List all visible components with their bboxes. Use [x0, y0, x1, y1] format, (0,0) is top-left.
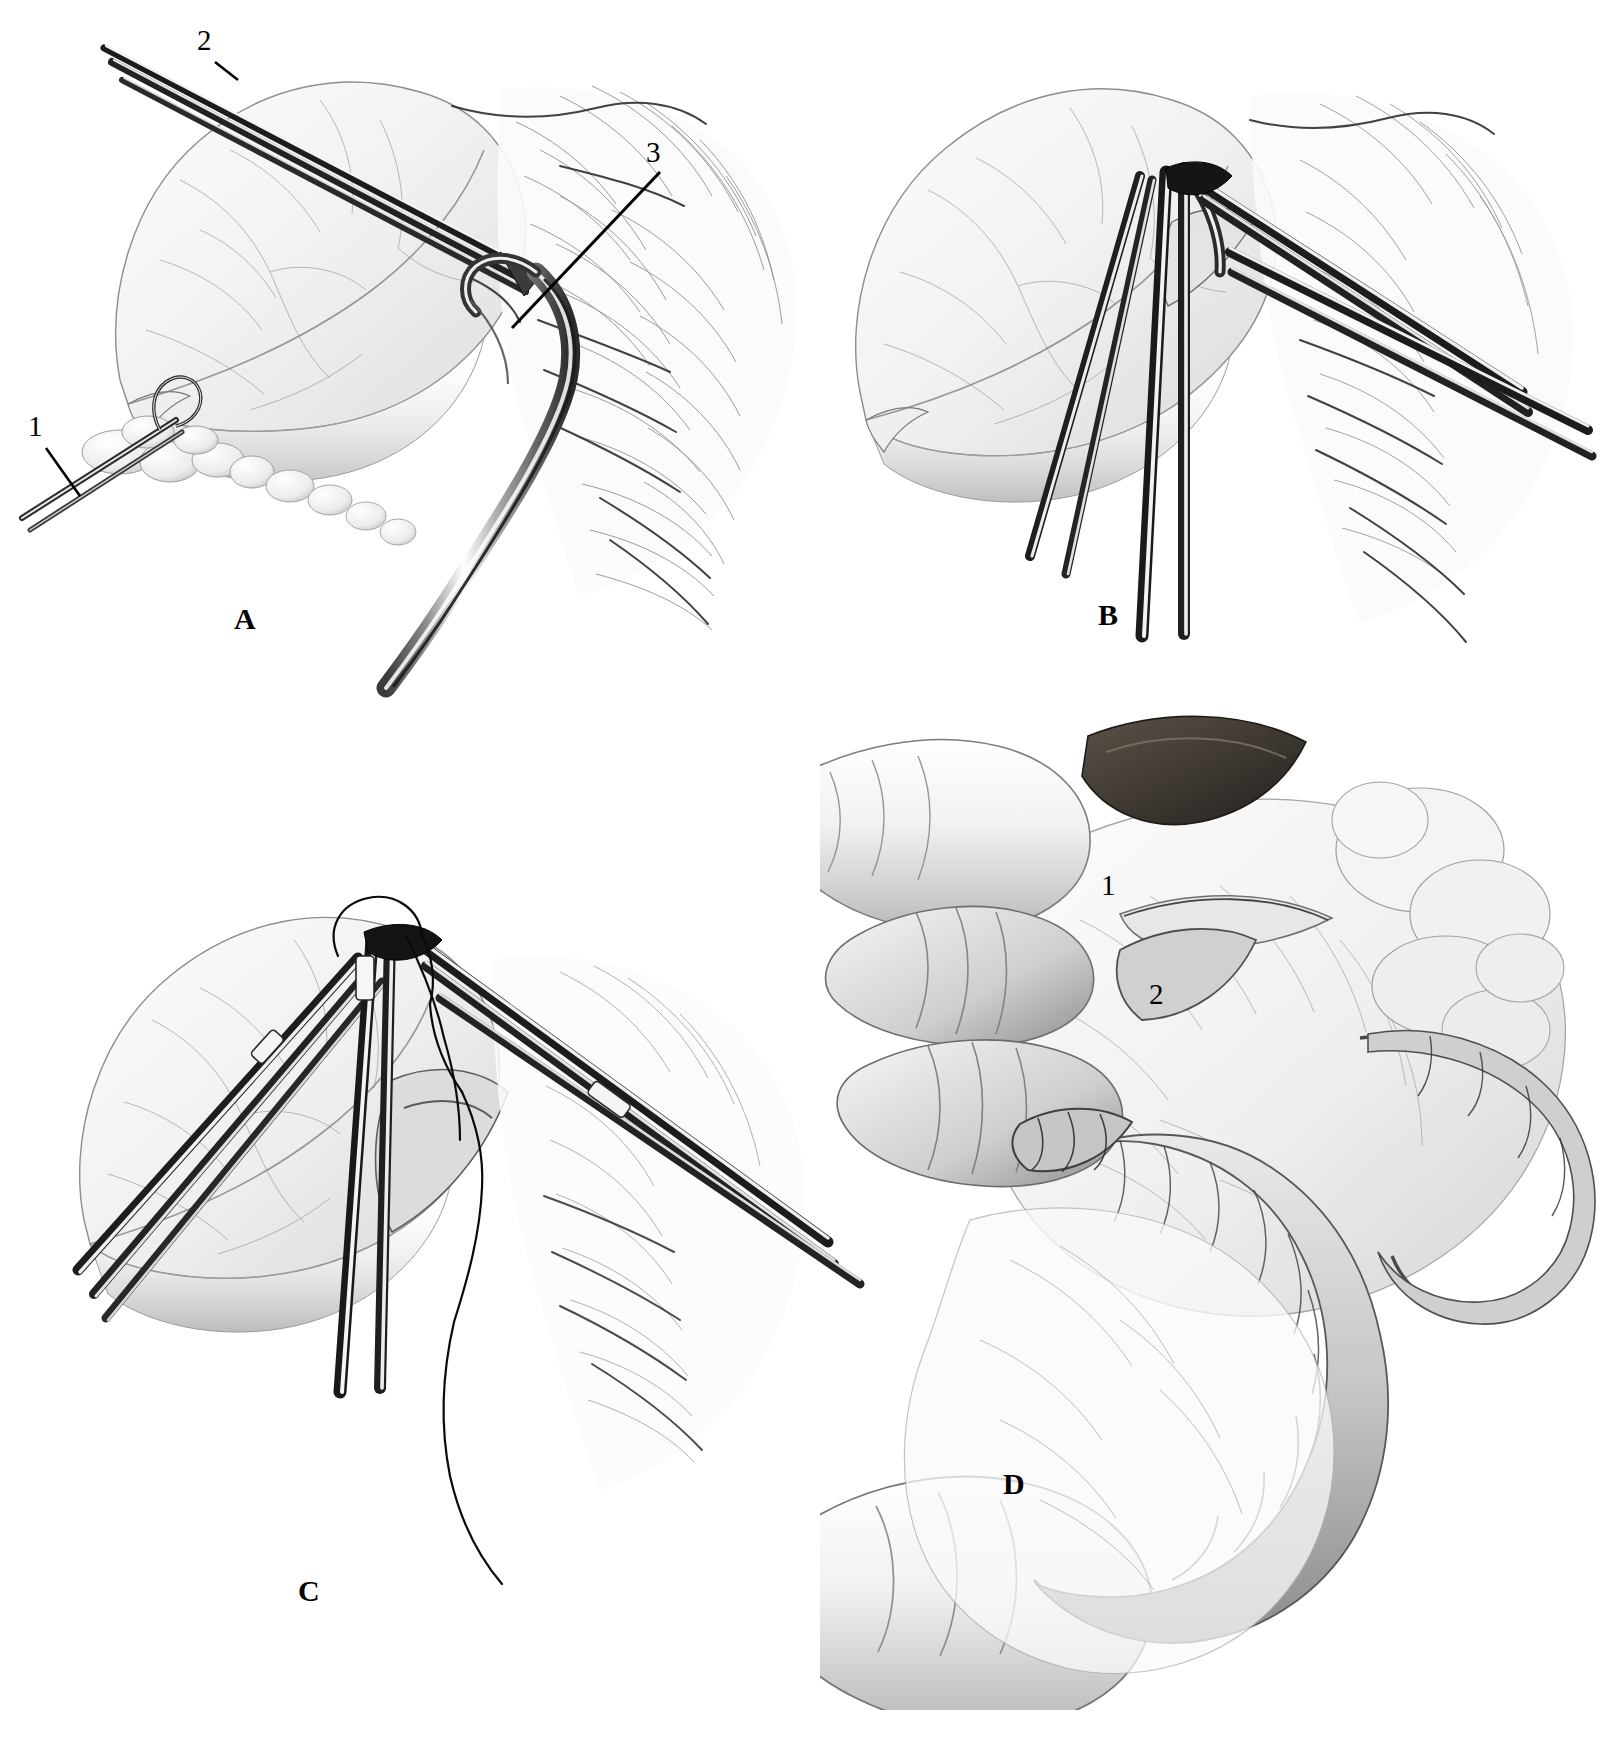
panel-d-label-1: 1 — [1101, 871, 1116, 900]
panel-letter-d: D — [1003, 1469, 1025, 1499]
panel-a-label-1: 1 — [28, 412, 43, 441]
panel-d: 1 2 D — [820, 700, 1621, 1710]
panel-d-illustration — [820, 700, 1621, 1710]
clamp-ratchet-c-center — [356, 956, 374, 1000]
panel-a: 1 2 3 A — [0, 0, 810, 720]
panel-b-illustration — [780, 0, 1621, 720]
panel-c-illustration — [40, 840, 920, 1600]
panel-a-label-2: 2 — [197, 26, 212, 55]
panel-letter-b: B — [1098, 600, 1118, 630]
panel-letter-a: A — [234, 604, 256, 634]
panel-d-label-2: 2 — [1149, 980, 1164, 1009]
panel-a-illustration — [0, 0, 810, 720]
panel-c: C — [40, 840, 920, 1600]
panel-a-label-3: 3 — [646, 138, 661, 167]
panel-b: B — [780, 0, 1621, 720]
figure-canvas: 1 2 3 A — [0, 0, 1621, 1748]
panel-letter-c: C — [298, 1576, 320, 1606]
liver-surface-b — [1250, 93, 1573, 622]
finger-index-d — [820, 740, 1090, 932]
